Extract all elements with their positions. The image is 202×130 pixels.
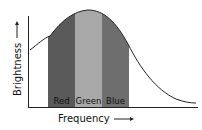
color-bands bbox=[48, 0, 129, 107]
red-band-label: Red bbox=[53, 95, 69, 106]
blue-band-label: Blue bbox=[106, 95, 125, 106]
x-axis-label: Frequency bbox=[58, 113, 110, 124]
green-band-label: Green bbox=[76, 95, 102, 106]
y-axis-arrow-icon bbox=[15, 21, 19, 38]
x-axis-arrow-icon bbox=[114, 117, 134, 121]
y-axis-label: Brightness bbox=[12, 43, 23, 96]
green-band bbox=[75, 0, 102, 107]
spectrum-diagram: Red Green Blue Frequency Brightness bbox=[0, 0, 202, 130]
